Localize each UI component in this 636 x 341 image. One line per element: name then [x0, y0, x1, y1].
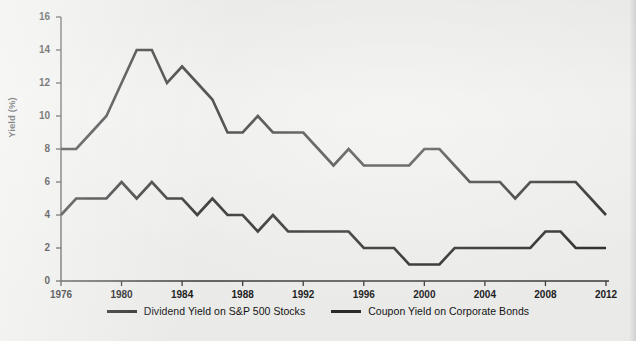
legend-label-coupon-yield: Coupon Yield on Corporate Bonds: [368, 305, 529, 317]
x-tick-label: 2012: [586, 289, 626, 300]
series-line-dividend-yield: [61, 182, 606, 265]
x-tick-label: 2004: [465, 289, 505, 300]
x-tick-label: 1996: [344, 289, 384, 300]
x-tick-label: 1988: [223, 289, 263, 300]
legend-label-dividend-yield: Dividend Yield on S&P 500 Stocks: [144, 305, 305, 317]
y-tick-label: 6: [28, 176, 50, 187]
y-tick-label: 10: [28, 110, 50, 121]
x-tick-label: 1984: [162, 289, 202, 300]
y-tick-label: 0: [28, 275, 50, 286]
chart-page: Yield (%) 024681012141619761980198419881…: [0, 0, 636, 341]
y-tick-label: 14: [28, 44, 50, 55]
x-tick-label: 1980: [102, 289, 142, 300]
chart-legend: Dividend Yield on S&P 500 Stocks Coupon …: [0, 305, 636, 317]
y-axis-title: Yield (%): [6, 83, 17, 153]
y-tick-label: 2: [28, 242, 50, 253]
legend-swatch-dividend-yield-icon: [107, 310, 137, 313]
y-tick-label: 12: [28, 77, 50, 88]
x-tick-label: 2000: [404, 289, 444, 300]
legend-swatch-coupon-yield-icon: [331, 310, 361, 313]
legend-item-dividend-yield: Dividend Yield on S&P 500 Stocks: [107, 305, 305, 317]
y-tick-label: 4: [28, 209, 50, 220]
y-tick-label: 8: [28, 143, 50, 154]
y-tick-label: 16: [28, 11, 50, 22]
legend-item-coupon-yield: Coupon Yield on Corporate Bonds: [331, 305, 529, 317]
x-tick-label: 1976: [41, 289, 81, 300]
x-tick-label: 2008: [525, 289, 565, 300]
x-tick-label: 1992: [283, 289, 323, 300]
